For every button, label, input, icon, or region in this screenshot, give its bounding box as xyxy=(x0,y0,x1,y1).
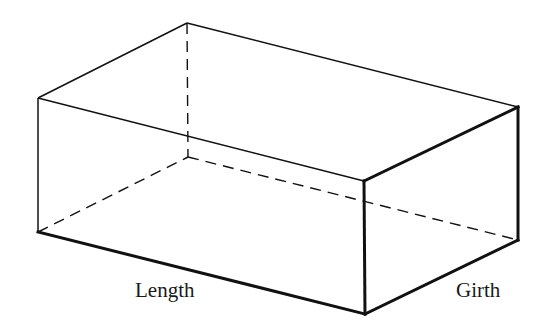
visible-edges-heavy xyxy=(38,107,518,314)
edge-top-front-length xyxy=(38,98,364,181)
edge-front-right-vertical xyxy=(364,181,365,314)
edge-back-bottom-length xyxy=(188,157,518,240)
edge-top-back-length xyxy=(187,23,518,107)
edge-top-left-depth xyxy=(38,23,187,98)
edge-bottom-girth xyxy=(365,240,518,314)
length-label: Length xyxy=(135,278,195,302)
box-diagram: Length Girth xyxy=(0,0,545,332)
edge-back-bottom-left-depth xyxy=(38,157,188,232)
edge-top-right-girth xyxy=(364,107,518,181)
girth-label: Girth xyxy=(456,278,501,302)
edge-bottom-length xyxy=(38,232,365,314)
hidden-edges xyxy=(38,23,518,240)
visible-edges-thin xyxy=(38,23,518,232)
